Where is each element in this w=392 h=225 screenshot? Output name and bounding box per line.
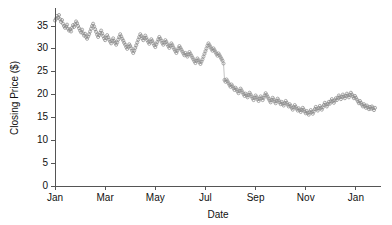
x-axis: JanMarMayJulSepNovJan [47, 186, 381, 203]
y-tick-label: 15 [37, 111, 49, 122]
x-tick-label: May [146, 192, 165, 203]
closing-price-chart: 05101520253035 JanMarMayJulSepNovJan Dat… [0, 0, 392, 225]
chart-svg: 05101520253035 JanMarMayJulSepNovJan Dat… [0, 0, 392, 225]
y-axis: 05101520253035 [37, 8, 55, 191]
plot-area [53, 13, 376, 116]
x-tick-label: Jan [348, 192, 364, 203]
y-axis-title: Closing Price ($) [9, 61, 20, 135]
x-axis-title: Date [207, 209, 229, 220]
y-tick-label: 25 [37, 65, 49, 76]
y-tick-label: 5 [42, 157, 48, 168]
y-tick-label: 35 [37, 20, 49, 31]
x-tick-label: Mar [97, 192, 115, 203]
x-tick-label: Nov [297, 192, 315, 203]
y-tick-label: 20 [37, 88, 49, 99]
x-tick-label: Jul [199, 192, 212, 203]
y-tick-label: 30 [37, 42, 49, 53]
x-tick-label: Sep [247, 192, 265, 203]
y-tick-label: 10 [37, 134, 49, 145]
x-tick-label: Jan [47, 192, 63, 203]
series-line [55, 15, 375, 115]
y-tick-label: 0 [42, 180, 48, 191]
